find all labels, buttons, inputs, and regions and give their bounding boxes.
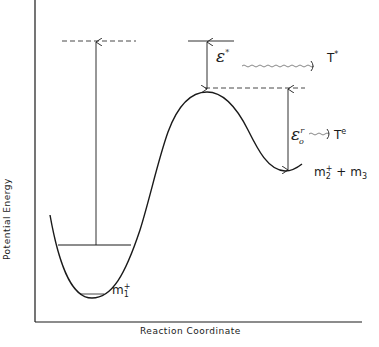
t-star-label: T* bbox=[327, 50, 338, 65]
t-e-label: Te bbox=[334, 127, 346, 142]
y-axis-label: Potential Energy bbox=[2, 178, 12, 260]
arrowhead-t-e bbox=[327, 129, 329, 139]
arrowhead-t-star bbox=[311, 61, 313, 71]
epsilon-r-label: εro bbox=[291, 124, 304, 146]
wavy-arrow-t-e bbox=[309, 133, 329, 135]
reactant-label: m1+ bbox=[112, 282, 131, 299]
potential-energy-curve bbox=[50, 92, 302, 298]
products-label: m2+ + m3 bbox=[314, 164, 367, 181]
x-axis-label: Reaction Coordinate bbox=[140, 326, 241, 336]
wavy-arrow-t-star bbox=[242, 65, 314, 67]
epsilon-star-label: ε* bbox=[216, 46, 229, 66]
axes bbox=[35, 0, 362, 322]
